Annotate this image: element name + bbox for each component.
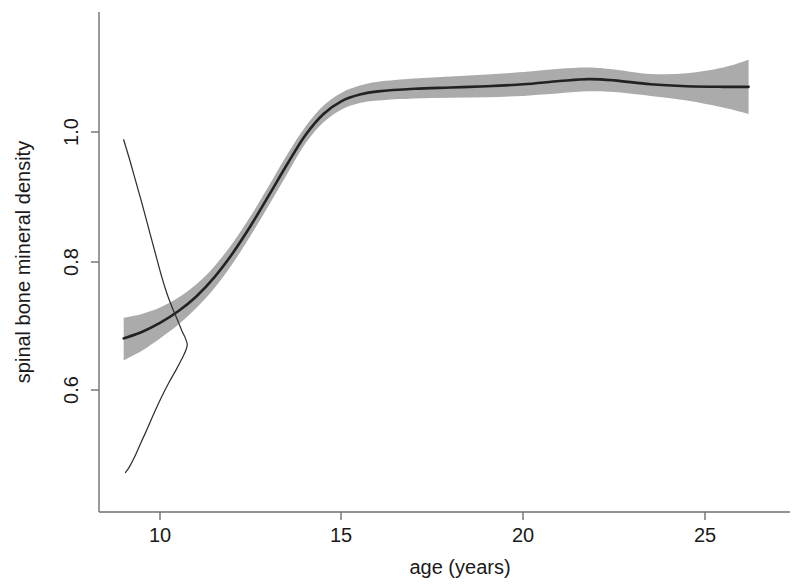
y-tick-label-2: 0.8 <box>60 248 82 276</box>
plot-canvas: 1.0 0.8 0.6 10 15 20 25 age (years) spin… <box>0 0 810 587</box>
x-tick-label-1: 10 <box>149 524 171 546</box>
x-tick-label-3: 20 <box>512 524 534 546</box>
x-tick-label-2: 15 <box>330 524 352 546</box>
x-tick-label-4: 25 <box>694 524 716 546</box>
y-axis-title: spinal bone mineral density <box>12 141 34 383</box>
chart-figure: 1.0 0.8 0.6 10 15 20 25 age (years) spin… <box>0 0 810 587</box>
y-tick-label-1: 1.0 <box>60 118 82 146</box>
y-tick-label-3: 0.6 <box>60 376 82 404</box>
x-axis-title: age (years) <box>409 556 510 578</box>
